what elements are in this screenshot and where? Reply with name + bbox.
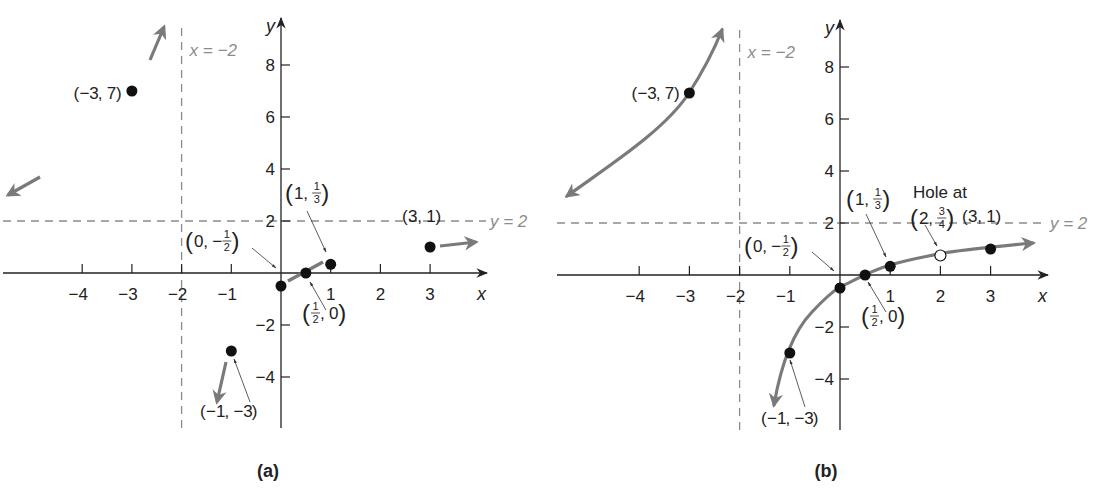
x-tick-label: −1 <box>776 287 795 306</box>
svg-text:,: , <box>879 307 884 326</box>
figure-canvas: x = −2y = 2xy−4−3−2−11238642−2−4(−3, 7)(… <box>0 0 1098 500</box>
point-label: (−1, −3) <box>761 409 818 428</box>
y-tick-label: 2 <box>266 212 275 231</box>
svg-text:(: ( <box>861 302 869 329</box>
svg-text:−3: −3 <box>79 84 98 103</box>
svg-text:1: 1 <box>312 300 318 312</box>
y-axis-label: y <box>823 18 835 38</box>
point-label: (3, 1) <box>402 207 441 226</box>
point-label: (1, 13) <box>285 179 329 206</box>
x-tick-label: 2 <box>376 285 385 304</box>
svg-text:,: , <box>224 402 229 421</box>
leader-line <box>925 225 937 246</box>
x-tick-label: 1 <box>885 287 894 306</box>
svg-text:): ) <box>321 179 329 206</box>
svg-text:2: 2 <box>871 316 877 328</box>
data-point <box>885 261 896 272</box>
svg-text:(: ( <box>302 299 310 326</box>
hole-note: Hole at <box>913 183 967 202</box>
svg-text:(: ( <box>846 185 854 212</box>
x-tick-label: 3 <box>986 287 995 306</box>
svg-text:3: 3 <box>968 207 977 226</box>
point-label: (12, 0) <box>861 302 905 329</box>
svg-text:1: 1 <box>224 228 230 240</box>
data-point <box>126 86 137 97</box>
vertical-asymptote-label: x = −2 <box>747 43 796 62</box>
svg-text:−3: −3 <box>233 402 252 421</box>
svg-text:): ) <box>995 207 1001 226</box>
svg-text:,: , <box>417 207 422 226</box>
svg-text:3: 3 <box>314 193 320 205</box>
leader-line <box>252 248 276 268</box>
svg-text:1: 1 <box>855 190 864 209</box>
svg-text:1: 1 <box>294 184 303 203</box>
y-tick-label: −4 <box>256 368 275 387</box>
x-tick-label: −4 <box>626 287 645 306</box>
x-axis-label: x <box>1037 286 1048 306</box>
x-tick-label: 3 <box>425 285 434 304</box>
svg-text:0: 0 <box>329 304 338 323</box>
data-point <box>860 270 871 281</box>
y-tick-label: −2 <box>815 318 834 337</box>
svg-text:1: 1 <box>314 180 320 192</box>
svg-text:2: 2 <box>224 241 230 253</box>
svg-text:): ) <box>116 84 122 103</box>
point-label: (0, −12) <box>185 227 239 254</box>
svg-text:(: ( <box>285 179 293 206</box>
data-point <box>835 283 846 294</box>
y-axis-label: y <box>264 16 276 36</box>
svg-text:(: ( <box>185 227 193 254</box>
x-tick-label: −1 <box>218 285 237 304</box>
panel-a-graph: x = −2y = 2xy−4−3−2−11238642−2−4(−3, 7)(… <box>3 16 528 428</box>
point-label: (12, 0) <box>302 299 346 326</box>
data-point <box>226 346 237 357</box>
data-point <box>684 88 695 99</box>
y-tick-label: 4 <box>825 162 834 181</box>
svg-text:0: 0 <box>888 307 897 326</box>
svg-text:0: 0 <box>194 232 203 251</box>
y-tick-label: 8 <box>825 58 834 77</box>
x-tick-label: 1 <box>326 285 335 304</box>
svg-text:4: 4 <box>939 218 945 230</box>
data-point <box>325 259 336 270</box>
svg-text:1: 1 <box>871 303 877 315</box>
svg-text:): ) <box>252 402 258 421</box>
y-tick-label: −4 <box>815 370 834 389</box>
data-point <box>425 242 436 253</box>
svg-text:−3: −3 <box>637 84 656 103</box>
left-branch-curve <box>567 30 722 196</box>
x-tick-label: 2 <box>936 287 945 306</box>
svg-text:): ) <box>790 232 798 259</box>
data-point <box>985 244 996 255</box>
svg-text:(: ( <box>910 204 918 231</box>
leader-line <box>812 252 834 271</box>
point-label: (0, −12) <box>744 232 798 259</box>
end-behavior-arrow <box>440 242 476 246</box>
y-tick-label: 6 <box>266 108 275 127</box>
point-label: (2, 34) <box>910 204 954 231</box>
svg-text:,: , <box>320 304 325 323</box>
y-tick-label: 2 <box>825 214 834 233</box>
svg-text:7: 7 <box>665 84 674 103</box>
svg-text:0: 0 <box>753 237 762 256</box>
svg-text:1: 1 <box>783 233 789 245</box>
x-tick-label: −3 <box>118 285 137 304</box>
point-label: (1, 13) <box>846 185 890 212</box>
svg-text:−1: −1 <box>767 409 786 428</box>
point-label: (−3, 7) <box>631 84 679 103</box>
y-tick-label: 8 <box>266 56 275 75</box>
data-point <box>276 281 287 292</box>
end-behavior-arrow <box>150 27 164 60</box>
end-behavior-arrow <box>8 177 40 195</box>
svg-text:1: 1 <box>426 207 435 226</box>
leader-line <box>234 359 250 402</box>
data-point <box>300 268 311 279</box>
svg-text:2: 2 <box>312 313 318 325</box>
panel-b-caption: (b) <box>815 461 838 481</box>
svg-text:2: 2 <box>919 209 928 228</box>
svg-text:,: , <box>303 184 308 203</box>
x-tick-label: −3 <box>676 287 695 306</box>
svg-text:): ) <box>435 207 441 226</box>
panel-a-caption: (a) <box>257 461 279 481</box>
panel-b-graph: x = −2y = 2xy−4−3−2−11238642−2−4(−3, 7)(… <box>557 18 1088 430</box>
